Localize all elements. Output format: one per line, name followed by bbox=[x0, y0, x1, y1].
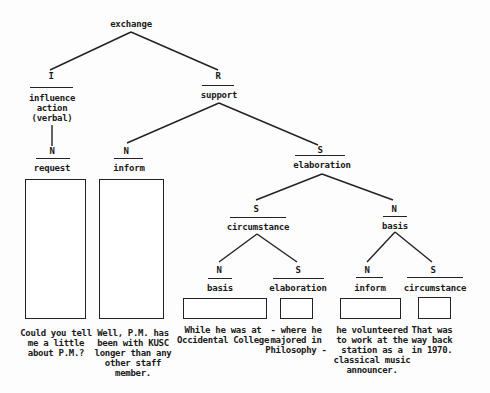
text-span-box bbox=[340, 298, 401, 319]
text-circumstance-leaf: That was way back in 1970. bbox=[412, 325, 453, 355]
node-exchange: exchange bbox=[110, 19, 152, 29]
role-N-request: N bbox=[49, 146, 54, 156]
rule bbox=[356, 277, 383, 278]
text-request: Could you tell me a little about P.M.? bbox=[20, 328, 92, 358]
rule bbox=[114, 158, 143, 159]
rule bbox=[407, 277, 463, 278]
role-N-inform: N bbox=[123, 146, 128, 156]
relation-basis-leaf: basis bbox=[207, 283, 233, 293]
text-span-box bbox=[25, 179, 86, 319]
text-span-box bbox=[183, 298, 267, 319]
rule bbox=[202, 85, 234, 86]
relation-circumstance: circumstance bbox=[227, 222, 290, 232]
relation-circumstance-leaf: circumstance bbox=[404, 283, 467, 293]
role-S-elaboration: S bbox=[317, 145, 322, 155]
relation-request: request bbox=[34, 163, 71, 173]
rule bbox=[36, 158, 70, 159]
relation-influence-action: influence action (verbal) bbox=[29, 93, 75, 123]
role-N-basis-leaf: N bbox=[216, 265, 221, 275]
text-span-box bbox=[418, 297, 451, 319]
role-S-circumstance-leaf: S bbox=[430, 265, 435, 275]
relation-elaboration-leaf: elaboration bbox=[269, 283, 326, 293]
rule bbox=[230, 217, 286, 218]
rule bbox=[30, 87, 73, 88]
role-N-inform-leaf: N bbox=[364, 265, 369, 275]
text-basis-leaf: While he was at Occidental College bbox=[177, 325, 269, 345]
text-inform-leaf: he volunteered to work at the station as… bbox=[334, 325, 411, 375]
text-span-box bbox=[280, 298, 313, 319]
role-I: I bbox=[48, 71, 53, 81]
relation-elaboration: elaboration bbox=[293, 160, 350, 170]
rule bbox=[273, 278, 324, 279]
role-S-elaboration-leaf: S bbox=[295, 265, 300, 275]
relation-inform-leaf: inform bbox=[354, 283, 385, 293]
relation-basis: basis bbox=[382, 221, 408, 231]
text-inform-top: Well, P.M. has been with KUSC longer tha… bbox=[95, 328, 172, 378]
role-R: R bbox=[215, 71, 220, 81]
rst-diagram: exchange I influence action (verbal) N r… bbox=[0, 0, 490, 393]
relation-support: support bbox=[201, 90, 238, 100]
rule bbox=[295, 155, 345, 156]
role-S-circumstance: S bbox=[253, 204, 258, 214]
role-N-basis: N bbox=[391, 204, 396, 214]
text-span-box bbox=[99, 179, 164, 319]
relation-inform: inform bbox=[113, 163, 144, 173]
text-elaboration-leaf: - where he majored in Philosophy - bbox=[265, 325, 326, 355]
rule bbox=[383, 216, 407, 217]
rule bbox=[208, 278, 232, 279]
